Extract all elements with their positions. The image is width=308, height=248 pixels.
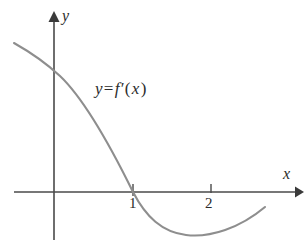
x-axis-arrowhead [295, 187, 304, 198]
y-axis-label: y [62, 8, 69, 24]
x-tick-label-2: 2 [205, 196, 213, 211]
x-axis-label: x [283, 166, 290, 182]
derivative-curve [14, 43, 265, 236]
equation-y: y [95, 79, 103, 98]
equation-open-paren: ( [124, 79, 132, 98]
graph-canvas [0, 0, 308, 248]
y-axis-arrowhead [49, 11, 60, 22]
equation-equals: = [103, 79, 115, 98]
math-graph-figure: y x 1 2 y=f′(x) [0, 0, 308, 248]
equation-close-paren: ) [140, 79, 148, 98]
x-tick-label-1: 1 [129, 196, 137, 211]
equation-f-prime: f′ [115, 79, 124, 98]
equation-x: x [132, 79, 140, 98]
curve-equation-label: y=f′(x) [95, 80, 148, 97]
